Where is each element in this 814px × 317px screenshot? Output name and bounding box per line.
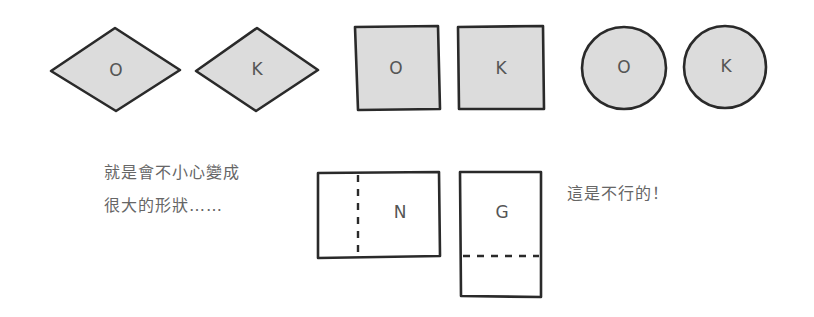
rect-g-label: G <box>495 202 508 222</box>
rect-n: N <box>318 172 440 258</box>
diamond-o-label: O <box>109 60 122 80</box>
caption-left-line1: 就是會不小心變成 <box>104 156 240 189</box>
circle-k: K <box>684 26 766 108</box>
square-o: O <box>355 26 440 110</box>
circle-o: O <box>582 27 666 109</box>
square-o-label: O <box>389 58 402 78</box>
rect-n-label: N <box>394 202 407 222</box>
caption-left-line2: 很大的形狀…… <box>104 189 240 222</box>
caption-left: 就是會不小心變成 很大的形狀…… <box>104 156 240 222</box>
diamond-o: O <box>51 28 180 111</box>
circle-k-label: K <box>720 56 732 76</box>
circle-o-label: O <box>617 57 630 77</box>
diamond-k: K <box>196 28 318 111</box>
diamond-k-label: K <box>251 59 263 79</box>
rect-g: G <box>460 172 541 297</box>
square-k-label: K <box>495 58 507 78</box>
square-k: K <box>458 26 544 109</box>
caption-right: 這是不行的！ <box>567 177 669 210</box>
